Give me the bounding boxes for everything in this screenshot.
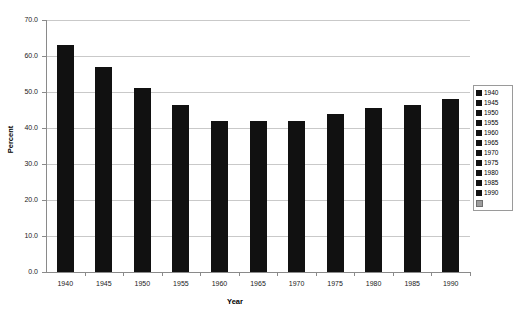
legend-label: 1960	[484, 128, 498, 138]
legend-swatch-icon	[476, 120, 482, 126]
legend-label: 1955	[484, 118, 498, 128]
x-tick-mark	[85, 272, 86, 276]
bar	[57, 45, 74, 272]
legend-item: 1955	[476, 118, 510, 128]
x-tick-label: 1950	[122, 280, 162, 288]
x-tick-mark	[316, 272, 317, 276]
x-tick-label: 1975	[315, 280, 355, 288]
gridline	[46, 56, 470, 57]
bar	[327, 114, 344, 272]
x-tick-mark	[354, 272, 355, 276]
y-tick-label: 50.0	[2, 88, 38, 96]
x-axis-line	[46, 272, 471, 273]
legend-swatch-icon	[476, 110, 482, 116]
legend-label: 1950	[484, 108, 498, 118]
x-tick-label: 1990	[431, 280, 471, 288]
legend-swatch-icon	[476, 170, 482, 176]
x-tick-mark	[393, 272, 394, 276]
legend-label: 1990	[484, 188, 498, 198]
x-tick-mark	[431, 272, 432, 276]
y-tick-label: 70.0	[2, 16, 38, 24]
legend-swatch-icon	[476, 130, 482, 136]
legend-swatch-icon	[476, 150, 482, 156]
legend-item: 1950	[476, 108, 510, 118]
legend-swatch-icon	[476, 140, 482, 146]
x-tick-label: 1960	[199, 280, 239, 288]
legend-item: 1945	[476, 98, 510, 108]
y-axis-title: Percent	[6, 110, 15, 170]
legend-label: 1970	[484, 148, 498, 158]
gridline	[46, 20, 470, 21]
legend-item: 1960	[476, 128, 510, 138]
x-tick-mark	[123, 272, 124, 276]
y-tick-label: 20.0	[2, 196, 38, 204]
y-axis-line	[46, 20, 47, 273]
legend-swatch-icon	[476, 160, 482, 166]
legend-label: 1965	[484, 138, 498, 148]
x-tick-label: 1985	[392, 280, 432, 288]
legend-item: 1980	[476, 168, 510, 178]
x-tick-label: 1970	[277, 280, 317, 288]
bar	[288, 121, 305, 272]
chart-legend: 1940194519501955196019651970197519801985…	[473, 85, 513, 211]
x-tick-label: 1940	[45, 280, 85, 288]
y-tick-label: 10.0	[2, 232, 38, 240]
x-tick-label: 1955	[161, 280, 201, 288]
legend-item: 1990	[476, 188, 510, 198]
bar-chart: 0.010.020.030.040.050.060.070.0 19401945…	[0, 0, 522, 320]
legend-item	[476, 198, 510, 208]
legend-label: 1945	[484, 98, 498, 108]
bar	[442, 99, 459, 272]
x-tick-mark	[277, 272, 278, 276]
x-tick-mark	[200, 272, 201, 276]
legend-swatch-icon	[476, 180, 482, 186]
legend-item: 1985	[476, 178, 510, 188]
bar	[365, 108, 382, 272]
legend-label: 1940	[484, 88, 498, 98]
legend-label: 1985	[484, 178, 498, 188]
x-tick-mark	[470, 272, 471, 276]
x-tick-mark	[239, 272, 240, 276]
bar	[250, 121, 267, 272]
bar	[95, 67, 112, 272]
legend-swatch-icon	[476, 90, 482, 96]
legend-item: 1975	[476, 158, 510, 168]
legend-label: 1980	[484, 168, 498, 178]
legend-swatch-icon	[476, 190, 482, 196]
x-tick-label: 1945	[84, 280, 124, 288]
bar	[404, 105, 421, 272]
y-tick-label: 60.0	[2, 52, 38, 60]
legend-item: 1965	[476, 138, 510, 148]
bar	[211, 121, 228, 272]
x-tick-label: 1980	[354, 280, 394, 288]
legend-placeholder-swatch-icon	[476, 200, 483, 207]
x-tick-mark	[162, 272, 163, 276]
legend-item: 1970	[476, 148, 510, 158]
bar	[172, 105, 189, 272]
x-tick-label: 1965	[238, 280, 278, 288]
legend-item: 1940	[476, 88, 510, 98]
legend-label: 1975	[484, 158, 498, 168]
x-axis-title: Year	[0, 297, 470, 306]
bar	[134, 88, 151, 272]
y-tick-label: 0.0	[2, 268, 38, 276]
legend-swatch-icon	[476, 100, 482, 106]
